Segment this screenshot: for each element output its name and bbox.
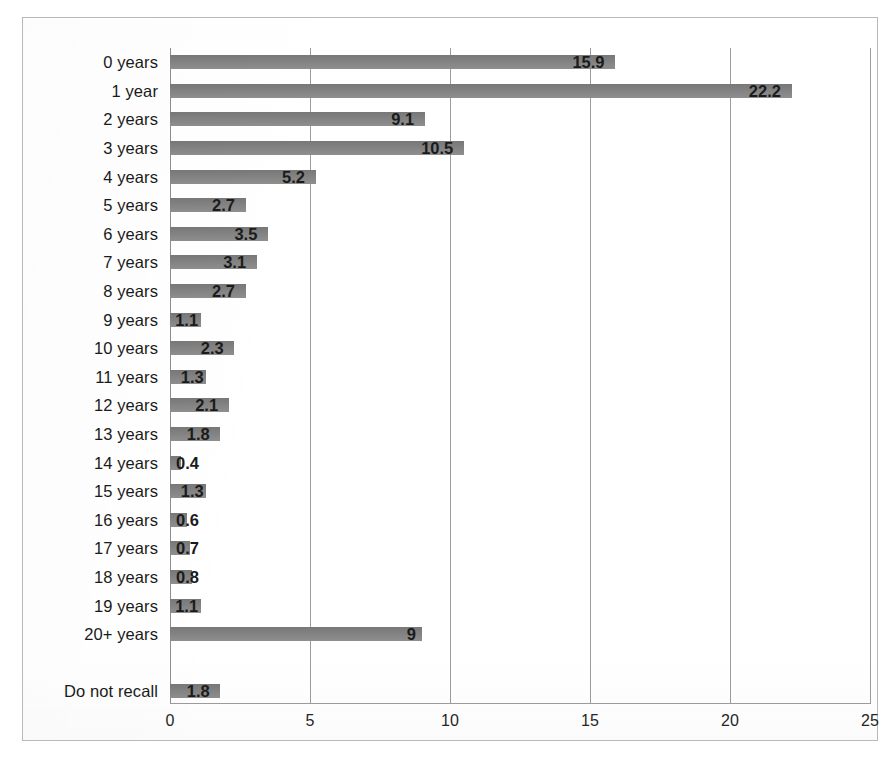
chart-row: 19 years1.1 — [170, 591, 870, 620]
category-label: 19 years — [94, 596, 158, 615]
bar — [170, 456, 181, 470]
category-label: 18 years — [94, 568, 158, 587]
chart-row: 10 years2.3 — [170, 334, 870, 363]
category-label: 11 years — [95, 367, 158, 386]
category-label: 8 years — [103, 282, 158, 301]
x-axis-tick-labels: 0510152025 — [170, 712, 870, 740]
bar — [170, 313, 201, 327]
x-tick-label: 20 — [721, 712, 739, 730]
chart-row: 0 years15.9 — [170, 48, 870, 77]
chart-row — [170, 649, 870, 678]
bar — [170, 55, 615, 69]
bar — [170, 570, 192, 584]
x-tick-label: 25 — [861, 712, 879, 730]
bar — [170, 112, 425, 126]
chart-row: 8 years2.7 — [170, 277, 870, 306]
chart-row: 15 years1.3 — [170, 477, 870, 506]
bar — [170, 84, 792, 98]
category-label: 5 years — [103, 196, 158, 215]
chart-row: 20+ years9 — [170, 620, 870, 649]
category-label: 16 years — [94, 510, 158, 529]
x-tick-label: 15 — [581, 712, 599, 730]
category-label: 4 years — [103, 167, 158, 186]
bar — [170, 255, 257, 269]
x-tick-label: 5 — [306, 712, 315, 730]
bar — [170, 627, 422, 641]
category-label: 0 years — [103, 53, 158, 72]
bar — [170, 198, 246, 212]
chart-row: Do not recall1.8 — [170, 677, 870, 706]
bar — [170, 341, 234, 355]
chart-row: 3 years10.5 — [170, 134, 870, 163]
bar — [170, 484, 206, 498]
category-label: Do not recall — [64, 682, 158, 701]
plot-area: 0 years15.91 year22.22 years9.13 years10… — [170, 48, 870, 703]
bar — [170, 599, 201, 613]
bar — [170, 541, 190, 555]
bar — [170, 684, 220, 698]
bar — [170, 513, 187, 527]
bar — [170, 227, 268, 241]
chart-row: 5 years2.7 — [170, 191, 870, 220]
chart-row: 13 years1.8 — [170, 420, 870, 449]
category-label: 14 years — [94, 453, 158, 472]
chart-row: 12 years2.1 — [170, 391, 870, 420]
bar — [170, 370, 206, 384]
category-label: 7 years — [103, 253, 158, 272]
category-label: 12 years — [94, 396, 158, 415]
chart-row: 6 years3.5 — [170, 220, 870, 249]
category-label: 6 years — [103, 224, 158, 243]
category-label: 10 years — [94, 339, 158, 358]
category-label: 20+ years — [84, 625, 158, 644]
x-tick-label: 0 — [166, 712, 175, 730]
chart-row: 7 years3.1 — [170, 248, 870, 277]
x-axis-line — [170, 703, 871, 704]
chart-row: 17 years0.7 — [170, 534, 870, 563]
bar-chart: 0 years15.91 year22.22 years9.13 years10… — [0, 0, 890, 757]
bar — [170, 427, 220, 441]
gridline-25 — [870, 48, 871, 703]
category-label: 3 years — [103, 139, 158, 158]
category-label: 17 years — [94, 539, 158, 558]
chart-row: 14 years0.4 — [170, 448, 870, 477]
category-label: 1 year — [112, 81, 158, 100]
chart-row: 11 years1.3 — [170, 363, 870, 392]
chart-row: 9 years1.1 — [170, 305, 870, 334]
bar — [170, 170, 316, 184]
chart-row: 16 years0.6 — [170, 506, 870, 535]
category-label: 15 years — [94, 482, 158, 501]
category-label: 13 years — [94, 425, 158, 444]
bar — [170, 284, 246, 298]
chart-frame: 0 years15.91 year22.22 years9.13 years10… — [22, 17, 878, 741]
chart-row: 2 years9.1 — [170, 105, 870, 134]
bar — [170, 398, 229, 412]
category-label: 9 years — [103, 310, 158, 329]
category-label: 2 years — [103, 110, 158, 129]
chart-row: 1 year22.2 — [170, 77, 870, 106]
x-tick-label: 10 — [441, 712, 459, 730]
chart-row: 18 years0.8 — [170, 563, 870, 592]
bar — [170, 141, 464, 155]
chart-row: 4 years5.2 — [170, 162, 870, 191]
